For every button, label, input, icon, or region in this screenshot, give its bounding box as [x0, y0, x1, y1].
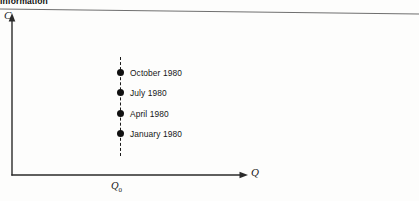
- data-point-marker: [117, 110, 124, 117]
- data-point-label: April 1980: [130, 109, 169, 119]
- data-point-marker: [117, 69, 124, 76]
- figure-canvas: Information C Q Q0 October 1980 July 198…: [0, 0, 419, 201]
- data-point-label: July 1980: [130, 88, 167, 98]
- y-axis-label: C: [4, 9, 11, 21]
- data-point-label: January 1980: [130, 129, 182, 139]
- q0-base: Q: [111, 180, 119, 191]
- data-point-marker: [117, 89, 124, 96]
- x-axis-tick-label-q0: Q0: [111, 180, 122, 194]
- q0-subscript: 0: [119, 186, 123, 194]
- x-axis-label: Q: [251, 166, 259, 178]
- data-point-marker: [117, 130, 124, 137]
- data-point-label: October 1980: [130, 68, 182, 78]
- chart-axes: [0, 0, 419, 201]
